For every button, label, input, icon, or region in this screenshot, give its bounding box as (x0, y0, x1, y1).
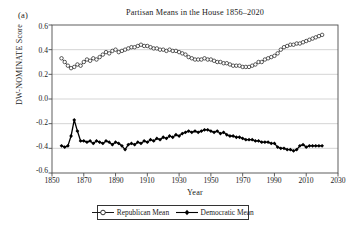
legend: Republican Mean Democratic Mean (97, 205, 249, 220)
gridlines (52, 50, 338, 149)
axis-ticks (49, 25, 339, 177)
series-republican (60, 33, 324, 70)
legend-label: Republican Mean (117, 208, 169, 217)
legend-item-democratic[interactable]: Democratic Mean (176, 208, 254, 217)
series-democratic (60, 118, 324, 153)
legend-label: Democratic Mean (201, 208, 254, 217)
filled-diamond-marker-icon (176, 208, 198, 217)
x-axis-label: Year (52, 188, 338, 197)
data-series-layer (60, 33, 324, 153)
legend-item-republican[interactable]: Republican Mean (92, 208, 169, 217)
figure-panel-a: (a) Partisan Means in the House 1856–202… (0, 0, 355, 233)
plot-area (0, 0, 355, 233)
open-circle-marker-icon (92, 208, 114, 217)
